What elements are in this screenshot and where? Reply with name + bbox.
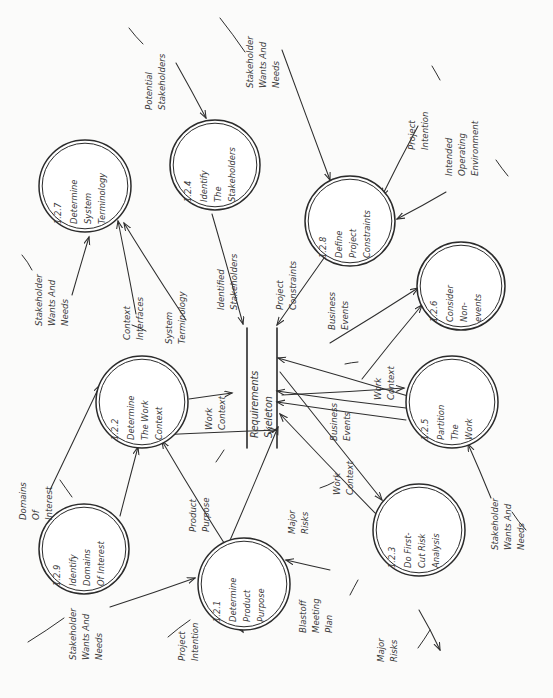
flow-label-line: Context <box>345 461 355 495</box>
process-line-3: Context <box>154 406 164 440</box>
flow-label-line: Stakeholders <box>157 53 167 110</box>
flow-label-line: Project <box>177 631 187 661</box>
flow-label-f-work-context-right: WorkContext <box>373 366 396 400</box>
process-id: 1.2.8 <box>318 237 328 258</box>
s-domains-stub <box>60 480 72 497</box>
flow-label-line: Interfaces <box>135 297 145 340</box>
dfd-canvas: Requirements Skeleton 1.2.7DetermineSyst… <box>0 0 553 698</box>
process-1-2-5[interactable]: 1.2.5PartitionTheWork <box>406 356 498 448</box>
store-label-line2: Skeleton <box>263 396 274 438</box>
flow-label-line: Domains <box>18 482 28 520</box>
process-line-1: Partition <box>436 405 446 440</box>
flow-label-line: Stakeholder <box>245 36 255 88</box>
flow-label-f-major-risks-center: MajorRisks <box>287 510 310 534</box>
flow-label-line: System <box>164 312 174 344</box>
process-line-2: Project <box>348 228 358 258</box>
process-id: 1.2.6 <box>429 301 439 322</box>
process-line-3: Terminology <box>97 172 107 224</box>
e-potential-to-124 <box>176 63 206 118</box>
process-id: 1.2.5 <box>420 419 430 440</box>
flow-label-line: Needs <box>60 299 70 326</box>
flow-label-line: Stakeholder <box>34 274 44 326</box>
s-blastoff-stub <box>350 580 358 595</box>
e-wants-to-121 <box>110 578 195 607</box>
process-line-1: Define <box>334 231 344 258</box>
process-1-2-1[interactable]: 1.2.1DetermineProductPurpose <box>198 538 290 630</box>
flow-label-line: Business <box>327 292 337 330</box>
e-blastoff-to-121 <box>286 560 330 570</box>
flow-label-line: Business <box>329 403 339 441</box>
process-line-2: Cut Risk <box>417 532 427 568</box>
process-line-3: events <box>473 293 483 322</box>
s-env-stub <box>496 160 508 176</box>
flow-label-f-major-risks-bottom: MajorRisks <box>376 638 399 662</box>
flow-label-line: Operating <box>457 132 467 176</box>
e-wants-to-125 <box>468 444 491 498</box>
s-potential-stub <box>129 28 143 44</box>
data-flow-diagram: Requirements Skeleton 1.2.7DetermineSyst… <box>0 0 553 698</box>
flow-label-line: Project <box>275 280 285 310</box>
flow-label-f-stakeholder-wants-bottomleft: StakeholderWants AndNeeds <box>68 608 104 660</box>
flow-label-line: Work <box>373 377 383 400</box>
flow-label-f-project-constraints: ProjectConstraints <box>275 260 298 310</box>
flow-label-line: Risks <box>300 511 310 534</box>
flow-label-line: Wants And <box>503 503 513 550</box>
flow-label-line: Of <box>31 508 41 520</box>
flow-label-line: Environment <box>470 120 480 176</box>
flow-label-f-intended-operating-env: IntendedOperatingEnvironment <box>444 120 480 176</box>
process-id: 1.2.3 <box>387 547 397 568</box>
flow-label-f-stakeholder-wants-left: StakeholderWants AndNeeds <box>34 274 70 326</box>
flow-label-f-project-intention-top: ProjectIntention <box>407 111 430 150</box>
process-id: 1.2.9 <box>52 565 62 586</box>
flow-label-line: Stakeholder <box>490 498 500 550</box>
data-store-layer: Requirements Skeleton <box>247 328 277 448</box>
e-env-to-128 <box>397 192 446 219</box>
s-wants-bl-stub <box>28 618 64 642</box>
s-wants-top-stub <box>220 18 245 52</box>
flow-label-line: Intention <box>420 111 430 150</box>
flow-label-f-identified-stakeholders: IdentifiedStakeholders <box>216 253 239 310</box>
flow-label-line: Wants And <box>81 613 91 660</box>
flow-label-line: Intention <box>190 622 200 661</box>
e-wants-to-128 <box>282 50 330 180</box>
process-line-2: The Work <box>140 399 150 440</box>
process-line-2: Product <box>242 589 252 622</box>
flow-label-line: Stakeholder <box>68 608 78 660</box>
e-domains-to-122 <box>50 385 100 490</box>
process-1-2-3[interactable]: 1.2.3Do First-Cut RiskAnalysis <box>373 484 465 576</box>
flow-label-line: Blastoff <box>298 599 308 633</box>
process-line-2: The <box>450 424 460 440</box>
e-121-to-store <box>228 427 278 545</box>
process-1-2-4[interactable]: 1.2.4IdentifyTheStakeholders <box>170 120 260 210</box>
s-product-purpose-stub <box>216 450 224 462</box>
process-1-2-7[interactable]: 1.2.7DetermineSystemTerminology <box>39 140 131 232</box>
flow-label-line: Wants And <box>47 279 57 326</box>
s-intention-stub <box>432 66 440 80</box>
process-id: 1.2.7 <box>53 202 63 224</box>
flow-label-f-business-events-mid: BusinessEvents <box>329 403 352 441</box>
flow-label-f-business-events-top: BusinessEvents <box>327 292 350 330</box>
process-line-1: Do First- <box>403 533 413 569</box>
e-context-to-127 <box>118 221 136 314</box>
process-1-2-8[interactable]: 1.2.8DefineProjectConstraints <box>305 176 395 266</box>
process-line-2: Non- <box>459 302 469 322</box>
process-1-2-6[interactable]: 1.2.6ConsiderNon-events <box>417 242 505 330</box>
flow-label-line: Intended <box>444 137 454 176</box>
flow-label-line: Stakeholders <box>229 253 239 310</box>
process-line-2: Domains <box>82 549 92 586</box>
flow-label-line: Events <box>342 411 352 441</box>
flow-label-line: Work <box>204 407 214 430</box>
flow-label-line: Project <box>407 120 417 150</box>
flow-label-line: Potential <box>144 71 154 110</box>
flow-label-f-stakeholder-wants-top: StakeholderWants AndNeeds <box>245 36 281 88</box>
flow-label-f-work-context-low: WorkContext <box>332 461 355 495</box>
flow-label-f-work-context-store: WorkContext <box>204 396 227 430</box>
process-1-2-2[interactable]: 1.2.2DetermineThe WorkContext <box>96 356 188 448</box>
process-line-1: Consider <box>445 285 455 322</box>
process-id: 1.2.2 <box>110 419 120 440</box>
process-line-3: Work <box>464 417 474 440</box>
process-line-1: Identify <box>199 169 209 202</box>
flow-label-line: Needs <box>271 61 281 88</box>
process-line-3: Constraints <box>362 210 372 258</box>
process-line-3: Analysis <box>431 533 441 569</box>
